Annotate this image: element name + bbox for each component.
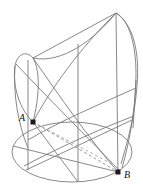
point-label-A: A [19,113,25,123]
base-chord-A-to-center-bottom [33,122,78,182]
point-marker-B [116,170,121,175]
ridge-straight-top [33,13,116,58]
dashed-chord-AB-secondary [33,122,112,164]
geometry-figure: A B [0,0,143,192]
left-lobe-inner [33,58,38,122]
point-marker-A [31,120,36,125]
ruling-line-right [133,80,136,128]
sweep-curve-outer-to-B [16,64,119,170]
sweep-curve-left-to-apex [33,13,116,122]
dashed-chord-AB [33,122,118,172]
geometry-canvas [0,0,143,192]
point-label-B: B [124,170,130,180]
base-ellipse [12,122,132,182]
ruling-line-apex [116,13,118,172]
